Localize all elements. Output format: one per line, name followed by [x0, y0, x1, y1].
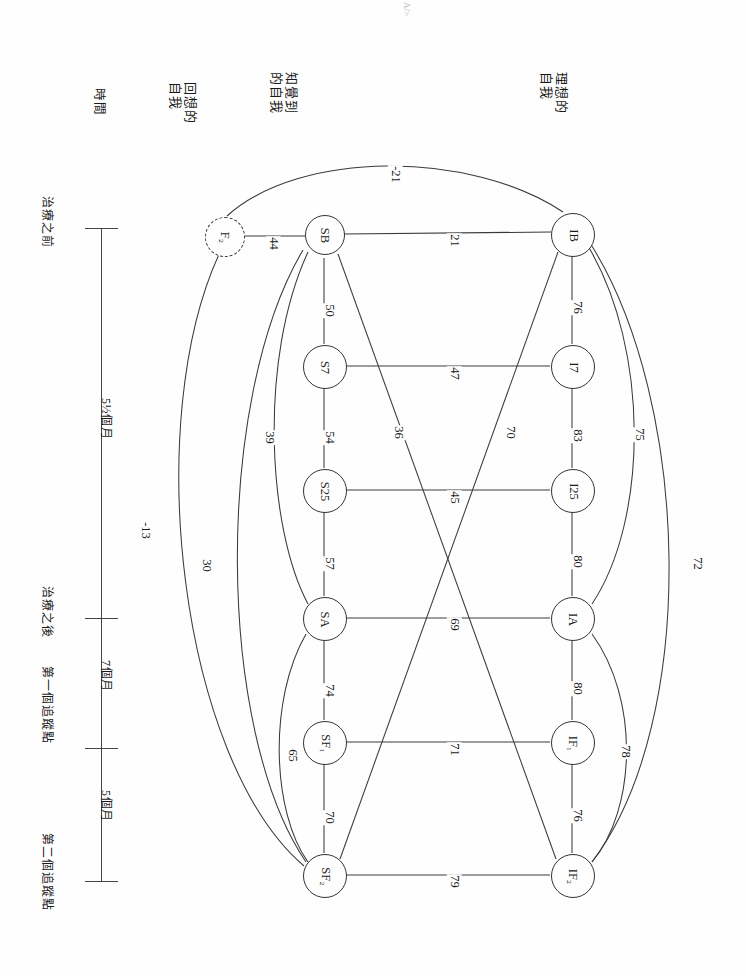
- node-label: F₂: [218, 231, 233, 242]
- edge-label-SB-SF2: 30: [199, 558, 214, 573]
- edge-layer: [0, 0, 746, 976]
- edge-label-I25-IA: 80: [570, 554, 585, 569]
- edge-IB-SF2: [340, 252, 558, 859]
- node-F2[interactable]: F₂: [205, 217, 245, 257]
- node-IB[interactable]: IB: [551, 213, 595, 257]
- edge-label-SB-SA: 39: [262, 430, 277, 445]
- edge-label-IB-I7: 76: [570, 300, 585, 315]
- edge-label-SA-SF2: 65: [285, 748, 300, 763]
- edge-label-IA-IF1: 80: [570, 681, 585, 696]
- edge-label-I7-I25: 83: [570, 428, 585, 443]
- edge-label-F2-SF2: -13: [138, 521, 153, 540]
- edge-F2-SF2: [179, 250, 304, 866]
- node-SB[interactable]: SB: [305, 215, 345, 255]
- node-IF2[interactable]: IF₂: [551, 854, 595, 898]
- edge-SB-SA: [274, 252, 308, 604]
- node-S7[interactable]: S7: [303, 345, 347, 389]
- node-label: S7: [317, 360, 332, 373]
- node-label: IF₁: [565, 735, 580, 750]
- edge-IB-IF2: [590, 243, 669, 862]
- edge-label-IB-SF2: 70: [503, 425, 518, 440]
- node-label: IA: [565, 612, 580, 625]
- edge-label-S25-I25: 45: [447, 490, 462, 505]
- edge-label-IF1-IF2: 76: [570, 808, 585, 823]
- edge-SB-IF2: [338, 254, 556, 859]
- node-label: IB: [566, 229, 581, 242]
- node-label: SB: [317, 227, 332, 242]
- edge-label-S7-I7: 47: [447, 366, 462, 381]
- edge-label-SA-SF1: 74: [322, 683, 337, 698]
- edge-label-SB-S7: 50: [322, 303, 337, 318]
- node-I25[interactable]: I25: [551, 469, 595, 513]
- edge-label-IA-IF2: 78: [618, 744, 633, 759]
- figure-sheet: A/> 理想的 自我 知覺到 的自我 回想的 自我 時間 治療之前 治療之後 第…: [0, 0, 746, 976]
- edge-label-F2-SB: 44: [266, 236, 281, 251]
- node-IA[interactable]: IA: [551, 597, 595, 641]
- node-IF1[interactable]: IF₁: [551, 721, 595, 765]
- node-label: IF₂: [565, 868, 580, 883]
- node-label: S25: [317, 481, 332, 500]
- edge-label-SB-IF2: 36: [391, 425, 406, 440]
- edge-label-IB-IA: 75: [632, 427, 647, 442]
- node-SA[interactable]: SA: [303, 597, 347, 641]
- edge-label-IB-IF2: 72: [690, 556, 705, 571]
- edge-label-SF2-IF2: 79: [447, 874, 462, 889]
- edge-label-S25-SA: 57: [322, 556, 337, 571]
- node-label: I7: [565, 362, 580, 372]
- node-label: I25: [565, 483, 580, 500]
- edge-label-SB-IB: 21: [447, 233, 462, 248]
- edge-IB-IA: [588, 246, 634, 604]
- node-label: SF₁: [317, 734, 332, 752]
- node-SF1[interactable]: SF₁: [303, 721, 347, 765]
- edge-label-SF1-IF1: 71: [447, 742, 462, 757]
- edge-label-F2-IB: -21: [388, 165, 403, 184]
- node-label: SA: [317, 611, 332, 627]
- edge-label-S7-S25: 54: [322, 430, 337, 445]
- edge-label-SF1-SF2: 70: [322, 810, 337, 825]
- node-label: SF₂: [317, 867, 332, 885]
- node-S25[interactable]: S25: [303, 469, 347, 513]
- node-SF2[interactable]: SF₂: [303, 854, 347, 898]
- edge-SB-SF2: [237, 250, 306, 862]
- edge-label-SA-IA: 69: [447, 617, 462, 632]
- node-I7[interactable]: I7: [551, 345, 595, 389]
